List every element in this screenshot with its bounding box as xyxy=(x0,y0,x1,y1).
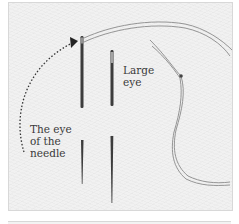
needle-illustration xyxy=(0,0,239,224)
eye-of-needle-label: The eye of the needle xyxy=(30,123,72,159)
large-eye-label: Large eye xyxy=(123,64,154,88)
needle-small-eye-icon xyxy=(81,36,84,184)
needle-large-eye-icon xyxy=(111,50,114,203)
thread-icon xyxy=(84,22,232,186)
